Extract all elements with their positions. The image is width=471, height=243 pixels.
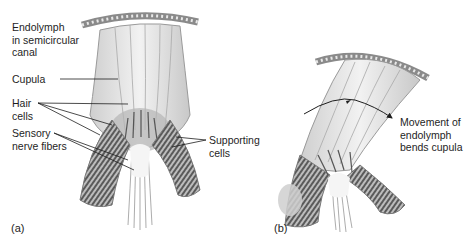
label-hair-cells: Hair cells [12,97,33,122]
label-sensory-nerve-fibers: Sensory nerve fibers [12,127,67,152]
label-movement-of-endolymph: Movement of endolymph bends cupula [400,116,462,154]
panel-a-illustration [80,16,200,230]
panel-a-letter: (a) [11,222,24,234]
label-supporting-cells: Supporting cells [209,134,260,159]
panel-b-letter: (b) [274,222,287,234]
label-endolymph: Endolymph in semicircular canal [12,21,79,59]
label-cupula: Cupula [12,73,45,86]
